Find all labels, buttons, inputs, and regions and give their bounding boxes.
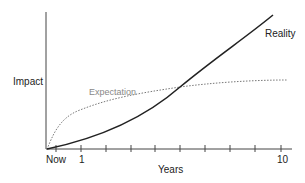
tick-label-1: 1	[79, 154, 85, 165]
x-axis-label: Years	[158, 164, 183, 175]
chart: Impact Now 1 10 Years Reality Expectatio…	[0, 0, 305, 183]
reality-line	[47, 15, 273, 149]
expectation-label: Expectation	[89, 87, 136, 97]
expectation-line	[47, 80, 287, 149]
tick-label-10: 10	[277, 154, 289, 165]
y-axis-label: Impact	[13, 76, 43, 87]
tick-label-now: Now	[46, 154, 67, 165]
reality-label: Reality	[265, 28, 296, 39]
